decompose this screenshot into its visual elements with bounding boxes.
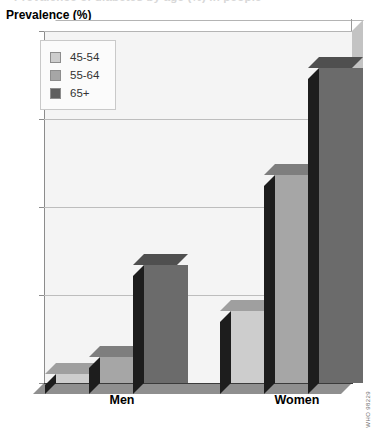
gridline — [44, 119, 352, 120]
legend-swatch-icon — [50, 70, 61, 81]
legend-item-label: 65+ — [70, 87, 90, 99]
bar-side-face — [133, 265, 144, 394]
legend-item-label: 45-54 — [70, 51, 99, 63]
bar-side-face — [220, 311, 231, 394]
bar-front-face — [319, 68, 363, 383]
x-axis-category-label: Men — [110, 393, 135, 407]
legend-item: 55-64 — [50, 66, 99, 84]
bar — [319, 68, 363, 383]
legend-item-label: 55-64 — [70, 69, 99, 81]
bar — [144, 265, 188, 383]
bar-side-face — [308, 68, 319, 394]
legend: 45-54 55-64 65+ — [40, 40, 116, 110]
y-axis-tick-mark — [39, 207, 44, 208]
y-axis-tick-mark — [39, 383, 44, 384]
legend-item: 65+ — [50, 84, 99, 102]
clipped-title-text: Prevalence of diabetes by age (%) in peo… — [14, 0, 262, 3]
y-axis-tick-mark — [39, 295, 44, 296]
legend-swatch-icon — [50, 52, 61, 63]
legend-swatch-icon — [50, 88, 61, 99]
y-axis-tick-mark — [39, 119, 44, 120]
bar-front-face — [144, 265, 188, 383]
gridline — [44, 31, 352, 32]
bar-side-face — [264, 175, 275, 394]
legend-item: 45-54 — [50, 48, 99, 66]
x-axis-category-label: Women — [275, 393, 320, 407]
source-credit: WHO 98229 — [365, 391, 371, 428]
y-axis-tick-mark — [39, 31, 44, 32]
